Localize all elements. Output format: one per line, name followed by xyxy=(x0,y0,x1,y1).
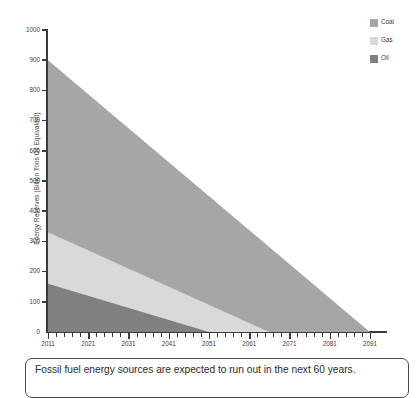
x-minor-tick xyxy=(346,333,347,337)
legend-label: Coal xyxy=(381,19,394,25)
x-major-tick-2081 xyxy=(330,333,331,339)
x-tick-label: 2061 xyxy=(242,340,256,347)
area-series-svg xyxy=(48,30,386,332)
x-major-tick-2071 xyxy=(289,333,290,339)
x-minor-tick xyxy=(137,333,138,337)
x-tick-label: 2071 xyxy=(282,340,296,347)
x-axis-ticks: 201120212031204120512061207120812091 xyxy=(0,331,416,355)
x-major-tick-2021 xyxy=(88,333,89,339)
x-minor-tick xyxy=(185,333,186,337)
x-major-tick-2011 xyxy=(48,333,49,339)
x-minor-tick xyxy=(225,333,226,337)
x-minor-tick xyxy=(120,333,121,337)
x-minor-tick xyxy=(112,333,113,337)
x-minor-tick xyxy=(96,333,97,337)
x-minor-tick xyxy=(233,333,234,337)
x-minor-tick xyxy=(56,333,57,337)
x-minor-tick xyxy=(64,333,65,337)
x-major-tick-2041 xyxy=(169,333,170,339)
y-tick-label: 100 xyxy=(29,299,40,305)
x-minor-tick xyxy=(281,333,282,337)
y-tick-label: 900 xyxy=(29,57,40,63)
x-tick-label: 2011 xyxy=(41,340,55,347)
caption-text: Fossil fuel energy sources are expected … xyxy=(35,363,399,376)
legend-swatch-icon xyxy=(370,55,378,63)
x-tick-label: 2091 xyxy=(363,340,377,347)
x-minor-tick xyxy=(104,333,105,337)
legend-swatch-icon xyxy=(370,19,378,27)
x-minor-tick xyxy=(145,333,146,337)
x-minor-tick xyxy=(257,333,258,337)
x-minor-tick xyxy=(338,333,339,337)
legend-label: Oil xyxy=(381,55,389,61)
legend-swatch-icon xyxy=(370,37,378,45)
x-minor-tick xyxy=(193,333,194,337)
y-tick-label: 600 xyxy=(29,148,40,154)
legend-item-coal[interactable]: Coal xyxy=(370,16,414,29)
x-tick-label: 2051 xyxy=(202,340,216,347)
x-major-tick-2051 xyxy=(209,333,210,339)
x-minor-tick xyxy=(161,333,162,337)
x-minor-tick xyxy=(273,333,274,337)
stacked-area-series-group xyxy=(48,30,386,332)
x-tick-label: 2031 xyxy=(121,340,135,347)
legend-item-gas[interactable]: Gas xyxy=(370,34,414,47)
x-minor-tick xyxy=(297,333,298,337)
legend-item-oil[interactable]: Oil xyxy=(370,52,414,65)
x-minor-tick xyxy=(80,333,81,337)
x-minor-tick xyxy=(314,333,315,337)
chart-legend: CoalGasOil xyxy=(370,16,414,70)
x-minor-tick xyxy=(72,333,73,337)
x-minor-tick xyxy=(177,333,178,337)
y-axis-ticks: 01002003004005006007008009001000 xyxy=(0,0,48,384)
x-major-tick-2091 xyxy=(370,333,371,339)
y-tick-label: 200 xyxy=(29,268,40,274)
x-minor-tick xyxy=(217,333,218,337)
y-tick-label: 700 xyxy=(29,117,40,123)
x-minor-tick xyxy=(265,333,266,337)
plot-area xyxy=(48,30,386,332)
caption-box: Fossil fuel energy sources are expected … xyxy=(25,358,409,398)
x-minor-tick xyxy=(354,333,355,337)
y-tick-label: 300 xyxy=(29,238,40,244)
x-minor-tick xyxy=(306,333,307,337)
x-tick-label: 2021 xyxy=(81,340,95,347)
y-tick-label: 400 xyxy=(29,208,40,214)
y-tick-label: 800 xyxy=(29,87,40,93)
x-major-tick-2031 xyxy=(128,333,129,339)
x-tick-label: 2041 xyxy=(162,340,176,347)
x-minor-tick xyxy=(153,333,154,337)
x-minor-tick xyxy=(201,333,202,337)
x-major-tick-2061 xyxy=(249,333,250,339)
x-minor-tick xyxy=(362,333,363,337)
y-tick-label: 500 xyxy=(29,178,40,184)
y-tick-label: 1000 xyxy=(26,27,40,33)
x-minor-tick xyxy=(322,333,323,337)
legend-label: Gas xyxy=(381,37,393,43)
x-minor-tick xyxy=(241,333,242,337)
x-tick-label: 2081 xyxy=(323,340,337,347)
